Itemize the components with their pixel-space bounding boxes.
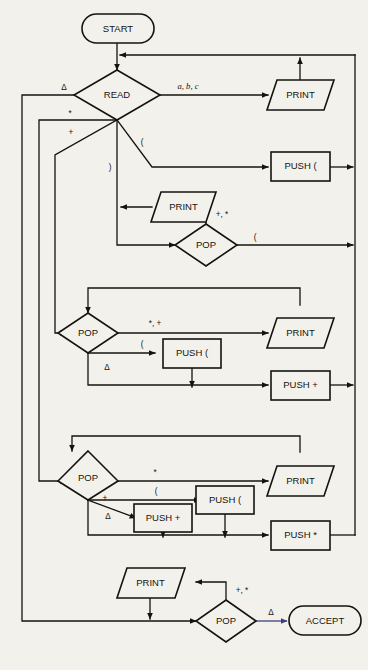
edge-read-close-to-pop2 (117, 120, 175, 245)
edge-label-pop5-plusstar: +, * (236, 586, 249, 595)
edge-label-pop2-open: ( (254, 233, 257, 242)
node-push-plus4-label: PUSH + (146, 512, 181, 523)
edge-label-pop3-starplus: *, + (149, 319, 162, 328)
node-print1-label: PRINT (286, 89, 315, 100)
edge-pop5-plusstar-to-print5 (196, 582, 226, 600)
edge-label-read-open: ( (141, 138, 144, 147)
node-push-plus3-label: PUSH + (283, 379, 318, 390)
edge-label-pop4-open: ( (155, 487, 158, 496)
node-push-paren1-label: PUSH ( (284, 160, 317, 171)
node-push-paren3-label: PUSH ( (176, 347, 209, 358)
node-print4-label: PRINT (286, 475, 315, 486)
node-push-star-label: PUSH * (284, 529, 317, 540)
node-accept-label: ACCEPT (306, 615, 345, 626)
edge-label-read-plus: + (69, 128, 74, 137)
node-pop3-label: POP (78, 327, 98, 338)
node-pop4-label: POP (78, 472, 98, 483)
edge-print3-loop-to-pop3 (88, 288, 300, 313)
flowchart-page: START READ PRINT PUSH ( PRINT POP POP PR… (0, 0, 368, 670)
node-push-paren4-label: PUSH ( (209, 494, 242, 505)
edge-label-pop4-plus: + (103, 494, 108, 503)
node-print3-label: PRINT (286, 327, 315, 338)
edge-label-pop2-plusstar: +, * (216, 210, 229, 219)
edge-read-star-to-mid-rail (39, 120, 117, 481)
node-start-label: START (103, 23, 133, 34)
flowchart-canvas: START READ PRINT PUSH ( PRINT POP POP PR… (0, 0, 368, 670)
edge-read-plus-to-inner-rail (55, 120, 117, 333)
edge-pop4-plus-to-push-plus4 (88, 500, 136, 518)
edge-label-pop4-delta: Δ (105, 512, 111, 521)
edge-label-read-close: ) (109, 163, 112, 172)
node-pop5-label: POP (216, 615, 236, 626)
edge-print4-loop-to-pop4 (72, 436, 300, 452)
edge-label-pop5-delta: Δ (268, 608, 274, 617)
edge-label-read-star: * (68, 109, 72, 118)
edge-label-pop3-open: ( (141, 340, 144, 349)
node-pop2-label: POP (196, 239, 216, 250)
edge-label-pop4-star: * (153, 468, 157, 477)
node-print2-label: PRINT (169, 201, 198, 212)
node-read-label: READ (104, 89, 131, 100)
edge-label-read-abc: a, b, c (177, 81, 198, 91)
node-print5-label: PRINT (136, 577, 165, 588)
edge-label-pop3-delta: Δ (104, 363, 110, 372)
edge-label-read-delta: Δ (61, 83, 67, 92)
